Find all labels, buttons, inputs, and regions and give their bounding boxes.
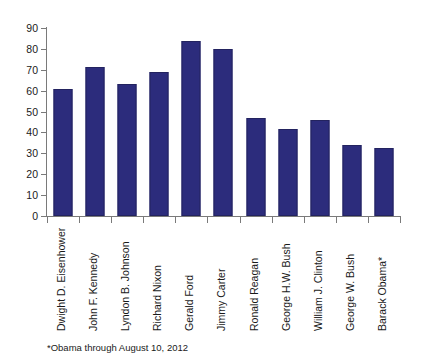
- bar: [342, 145, 361, 216]
- bar: [54, 89, 73, 216]
- x-axis-label-slot: Lyndon B. Johnson: [111, 226, 143, 331]
- y-axis-tick-label: 0: [16, 211, 38, 221]
- y-axis-tick-label-wrap: 60: [0, 86, 38, 96]
- bar-slot: [47, 28, 79, 216]
- x-axis-label-slot: Barack Obama*: [368, 226, 400, 331]
- bar-slot: [207, 28, 239, 216]
- bar: [214, 49, 233, 216]
- x-axis-label: George W. Bush: [345, 254, 356, 331]
- x-axis-label: John F. Kennedy: [88, 253, 99, 331]
- bar-series: [47, 28, 400, 216]
- x-axis-label-slot: Jimmy Carter: [207, 226, 239, 331]
- x-axis-label: Barack Obama*: [377, 257, 388, 331]
- x-axis-tick: [47, 217, 48, 223]
- x-axis-label-slot: George W. Bush: [336, 226, 368, 331]
- bar-slot: [304, 28, 336, 216]
- bar: [278, 129, 297, 216]
- bar: [310, 120, 329, 216]
- bar-slot: [272, 28, 304, 216]
- x-axis-labels: Dwight D. EisenhowerJohn F. KennedyLyndo…: [47, 226, 400, 331]
- x-axis-label-slot: George H.W. Bush: [272, 226, 304, 331]
- y-axis-tick-label-wrap: 10: [0, 190, 38, 200]
- y-axis-tick-label: 10: [16, 190, 38, 200]
- bar: [86, 67, 105, 216]
- y-axis-tick-label: 30: [16, 148, 38, 158]
- bar-slot: [143, 28, 175, 216]
- y-axis-tick-label-wrap: 40: [0, 127, 38, 137]
- x-axis-label: Gerald Ford: [184, 275, 195, 331]
- x-axis-tick: [143, 217, 144, 223]
- x-axis-tick: [175, 217, 176, 223]
- bar-chart: 0102030405060708090 Dwight D. Eisenhower…: [0, 0, 422, 363]
- x-axis-line: [46, 216, 401, 217]
- x-axis-label-slot: Gerald Ford: [175, 226, 207, 331]
- x-axis-tick: [240, 217, 241, 223]
- x-axis-tick: [111, 217, 112, 223]
- x-axis-label-slot: Dwight D. Eisenhower: [47, 226, 79, 331]
- x-axis-tick: [368, 217, 369, 223]
- y-axis-tick-label: 60: [16, 86, 38, 96]
- y-axis-tick-label-wrap: 90: [0, 23, 38, 33]
- x-axis-label: Lyndon B. Johnson: [120, 241, 131, 331]
- x-axis-label-slot: Richard Nixon: [143, 226, 175, 331]
- x-axis-label: George H.W. Bush: [281, 243, 292, 331]
- bar: [182, 41, 201, 216]
- x-axis-label: Jimmy Carter: [216, 269, 227, 331]
- x-axis-label: Ronald Reagan: [249, 258, 260, 331]
- y-axis-tick-label-wrap: 0: [0, 211, 38, 221]
- bar-slot: [368, 28, 400, 216]
- y-axis-tick-label: 90: [16, 23, 38, 33]
- x-axis-label: Richard Nixon: [152, 265, 163, 331]
- bar-slot: [175, 28, 207, 216]
- y-axis-tick-label: 70: [16, 65, 38, 75]
- bar-slot: [240, 28, 272, 216]
- x-axis-tick: [400, 217, 401, 223]
- x-axis-label-slot: Ronald Reagan: [240, 226, 272, 331]
- y-axis-tick-label-wrap: 20: [0, 169, 38, 179]
- y-axis-tick-label-wrap: 50: [0, 107, 38, 117]
- x-axis-tick: [272, 217, 273, 223]
- x-axis-tick: [79, 217, 80, 223]
- y-axis-tick-label-wrap: 30: [0, 148, 38, 158]
- y-axis-tick-label-wrap: 70: [0, 65, 38, 75]
- x-axis-label: William J. Clinton: [313, 250, 324, 331]
- y-axis-tick-label-wrap: 80: [0, 44, 38, 54]
- bar-slot: [79, 28, 111, 216]
- bar: [374, 148, 393, 216]
- x-axis-tick: [207, 217, 208, 223]
- x-axis-label: Dwight D. Eisenhower: [56, 228, 67, 331]
- x-axis-label-slot: William J. Clinton: [304, 226, 336, 331]
- chart-footnote: *Obama through August 10, 2012: [47, 342, 188, 353]
- bar-slot: [111, 28, 143, 216]
- bar: [118, 84, 137, 216]
- x-axis-label-slot: John F. Kennedy: [79, 226, 111, 331]
- bar-slot: [336, 28, 368, 216]
- bar: [150, 72, 169, 216]
- bar: [246, 118, 265, 216]
- x-axis-tick: [336, 217, 337, 223]
- y-axis-tick-label: 20: [16, 169, 38, 179]
- y-axis-tick-label: 40: [16, 127, 38, 137]
- y-axis-tick-label: 50: [16, 107, 38, 117]
- x-axis-tick: [304, 217, 305, 223]
- y-axis-tick-label: 80: [16, 44, 38, 54]
